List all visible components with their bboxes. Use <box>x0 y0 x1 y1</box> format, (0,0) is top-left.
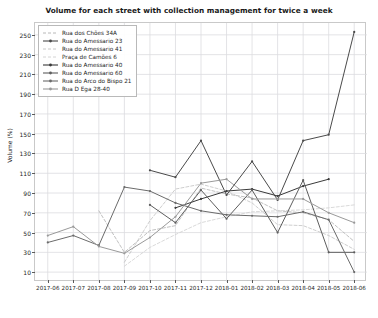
x-tick-label: 2017-07 <box>62 285 85 291</box>
y-tick-label: 90 <box>23 190 31 197</box>
x-tick-label: 2018-04 <box>291 285 314 291</box>
y-tick-mark <box>32 74 35 75</box>
legend-label: Rua do Amessario 60 <box>62 69 122 77</box>
x-tick-mark <box>150 280 151 283</box>
y-axis-label: Volume (%) <box>6 113 13 179</box>
legend-swatch-icon <box>42 61 59 69</box>
x-tick-mark <box>201 280 202 283</box>
legend-label: Rua dos Chões 34A <box>62 29 117 37</box>
x-tick-label: 2017-08 <box>87 285 110 291</box>
legend-swatch-icon <box>42 77 59 85</box>
y-tick-mark <box>32 153 35 154</box>
x-tick-mark <box>175 280 176 283</box>
series-3 <box>124 205 354 266</box>
x-tick-mark <box>303 280 304 283</box>
legend-swatch-icon <box>42 37 59 45</box>
x-tick-label: 2018-01 <box>215 285 238 291</box>
legend-item[interactable]: Rua do Amessario 40 <box>42 61 132 69</box>
legend-swatch-icon <box>42 45 59 53</box>
x-tick-label: 2017-12 <box>189 285 212 291</box>
y-tick-label: 150 <box>20 130 31 137</box>
x-tick-label: 2017-10 <box>138 285 161 291</box>
chart-figure: Volume for each street with collection m… <box>0 0 378 318</box>
x-tick-mark <box>252 280 253 283</box>
y-tick-label: 130 <box>20 150 31 157</box>
chart-title: Volume for each street with collection m… <box>0 6 378 15</box>
legend-item[interactable]: Rua do Amessario 41 <box>42 45 132 53</box>
y-tick-label: 110 <box>20 170 31 177</box>
y-tick-mark <box>32 173 35 174</box>
y-tick-label: 250 <box>20 31 31 38</box>
y-tick-label: 70 <box>23 209 31 216</box>
x-tick-label: 2018-02 <box>240 285 263 291</box>
x-tick-label: 2017-06 <box>36 285 59 291</box>
legend-label: Rua do Amessario 23 <box>62 37 122 45</box>
legend-item[interactable]: Rua D Ega 28-40 <box>42 85 132 93</box>
y-tick-mark <box>32 114 35 115</box>
x-tick-mark <box>329 280 330 283</box>
y-tick-mark <box>32 55 35 56</box>
y-tick-label: 10 <box>23 269 31 276</box>
x-tick-label: 2018-06 <box>343 285 366 291</box>
x-tick-mark <box>278 280 279 283</box>
x-tick-label: 2017-11 <box>164 285 187 291</box>
y-tick-mark <box>32 252 35 253</box>
legend-swatch-icon <box>42 85 59 93</box>
legend-item[interactable]: Rua do Arco do Bispo 21 <box>42 77 132 85</box>
legend-label: Praça de Camões 6 <box>62 53 117 61</box>
y-tick-label: 170 <box>20 110 31 117</box>
legend-swatch-icon <box>42 53 59 61</box>
legend-label: Rua do Amessario 40 <box>62 61 122 69</box>
y-tick-label: 30 <box>23 249 31 256</box>
legend-label: Rua do Amessario 41 <box>62 45 122 53</box>
y-tick-label: 50 <box>23 229 31 236</box>
series-1 <box>149 31 356 201</box>
x-tick-mark <box>73 280 74 283</box>
legend-label: Rua do Arco do Bispo 21 <box>62 77 132 85</box>
x-tick-mark <box>227 280 228 283</box>
legend-swatch-icon <box>42 29 59 37</box>
x-tick-label: 2018-05 <box>317 285 340 291</box>
y-tick-mark <box>32 233 35 234</box>
x-tick-mark <box>124 280 125 283</box>
legend[interactable]: Rua dos Chões 34ARua do Amessario 23Rua … <box>38 25 137 97</box>
x-tick-mark <box>48 280 49 283</box>
x-tick-mark <box>354 280 355 283</box>
x-tick-label: 2017-09 <box>113 285 136 291</box>
y-tick-mark <box>32 213 35 214</box>
y-tick-label: 210 <box>20 71 31 78</box>
y-tick-mark <box>32 35 35 36</box>
legend-item[interactable]: Rua do Amessario 23 <box>42 37 132 45</box>
y-tick-mark <box>32 134 35 135</box>
x-tick-mark <box>99 280 100 283</box>
y-tick-mark <box>32 193 35 194</box>
x-tick-label: 2018-03 <box>266 285 289 291</box>
legend-swatch-icon <box>42 69 59 77</box>
y-tick-mark <box>32 94 35 95</box>
series-0 <box>99 188 354 252</box>
legend-item[interactable]: Rua dos Chões 34A <box>42 29 132 37</box>
legend-item[interactable]: Praça de Camões 6 <box>42 53 132 61</box>
legend-label: Rua D Ega 28-40 <box>62 85 110 93</box>
y-tick-mark <box>32 272 35 273</box>
y-tick-label: 190 <box>20 91 31 98</box>
y-tick-label: 230 <box>20 51 31 58</box>
legend-item[interactable]: Rua do Amessario 60 <box>42 69 132 77</box>
